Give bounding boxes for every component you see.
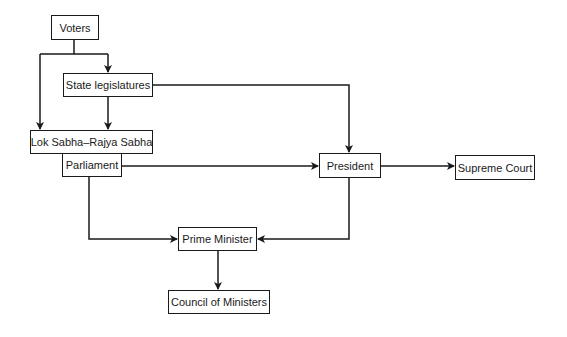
diagram-canvas: Voters State legislatures Lok Sabha–Rajy… [0,0,567,337]
node-council-of-ministers: Council of Ministers [168,290,270,314]
node-voters: Voters [51,15,99,40]
node-parliament: Parliament [62,153,122,177]
node-president: President [319,153,381,178]
node-supreme-court: Supreme Court [455,155,535,180]
edge-voters-split [40,40,108,54]
node-prime-minister: Prime Minister [178,227,257,251]
edge-president-to-prime-minister [258,178,349,239]
edge-parliament-to-prime-minister [89,177,177,239]
node-state-legislatures: State legislatures [63,73,153,97]
edge-state-legislatures-to-president [153,85,349,152]
node-lok-sabha-rajya-sabha: Lok Sabha–Rajya Sabha [30,130,153,154]
